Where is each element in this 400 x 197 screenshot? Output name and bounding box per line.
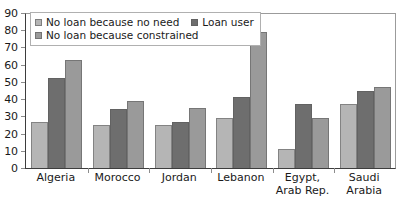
bar xyxy=(340,104,357,168)
legend-entry: No loan because no need xyxy=(35,17,179,28)
y-tick-label: 60 xyxy=(4,59,18,70)
legend-label: Loan user xyxy=(202,17,253,28)
bar xyxy=(65,60,82,169)
legend-row-2: No loan because constrained xyxy=(35,29,254,42)
legend-swatch-icon xyxy=(35,32,42,39)
bar xyxy=(278,149,295,168)
y-tick-label: 30 xyxy=(4,111,18,122)
bar xyxy=(127,101,144,168)
legend-swatch-icon xyxy=(191,19,198,26)
bar xyxy=(312,118,329,168)
x-axis-category-label: Algeria xyxy=(25,172,87,185)
bar xyxy=(250,32,267,168)
legend-label: No loan because constrained xyxy=(46,30,199,41)
y-tick-label: 90 xyxy=(4,8,18,19)
bar xyxy=(110,109,127,168)
x-axis-category-label: Saudi Arabia xyxy=(333,172,395,197)
x-axis-category-labels: AlgeriaMoroccoJordanLebanonEgypt, Arab R… xyxy=(25,172,396,197)
bar xyxy=(233,97,250,168)
x-axis-category-label: Lebanon xyxy=(210,172,272,185)
bar-chart: 9080706050403020100 AlgeriaMoroccoJordan… xyxy=(0,0,400,197)
bar-group xyxy=(273,14,335,168)
bar xyxy=(216,118,233,168)
bar xyxy=(189,108,206,168)
y-tick-label: 20 xyxy=(4,128,18,139)
chart-legend: No loan because no needLoan user No loan… xyxy=(30,12,261,46)
y-tick-label: 10 xyxy=(4,145,18,156)
bar xyxy=(155,125,172,168)
bar xyxy=(31,122,48,169)
bar xyxy=(295,104,312,168)
legend-entry: No loan because constrained xyxy=(35,30,199,41)
legend-row-1: No loan because no needLoan user xyxy=(35,16,254,29)
bar xyxy=(93,125,110,168)
y-tick-label: 50 xyxy=(4,76,18,87)
y-axis: 9080706050403020100 xyxy=(0,8,21,170)
bar xyxy=(374,87,391,168)
x-axis-category-label: Morocco xyxy=(87,172,149,185)
y-tick-label: 70 xyxy=(4,42,18,53)
x-axis-category-label: Egypt, Arab Rep. xyxy=(272,172,334,197)
y-tick-label: 0 xyxy=(11,163,18,174)
legend-swatch-icon xyxy=(35,19,42,26)
y-tick-label: 40 xyxy=(4,94,18,105)
y-tick-label: 80 xyxy=(4,25,18,36)
bar xyxy=(48,78,65,168)
bar-group xyxy=(334,14,396,168)
x-axis-category-label: Jordan xyxy=(148,172,210,185)
bar xyxy=(172,122,189,169)
legend-label: No loan because no need xyxy=(46,17,179,28)
legend-entry: Loan user xyxy=(191,17,253,28)
bar xyxy=(357,91,374,169)
